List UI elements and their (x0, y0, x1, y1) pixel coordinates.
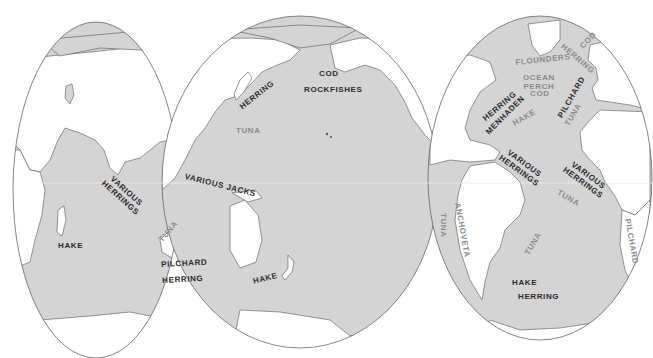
label-peru-tuna: TUNA (439, 213, 448, 238)
label-pacific-cod: COD (319, 69, 339, 78)
label-pacific-tuna: TUNA (236, 126, 261, 135)
label-indian-hake: HAKE (58, 241, 83, 250)
land-europe (588, 38, 650, 110)
land-antarctica-1 (0, 312, 180, 358)
label-argentina-hake: HAKE (512, 278, 537, 287)
label-atlantic-cod: COD (530, 89, 550, 98)
label-pacific-rockfishes: ROCKFISHES (304, 85, 362, 94)
label-argentina-herring: HERRING (518, 292, 559, 301)
